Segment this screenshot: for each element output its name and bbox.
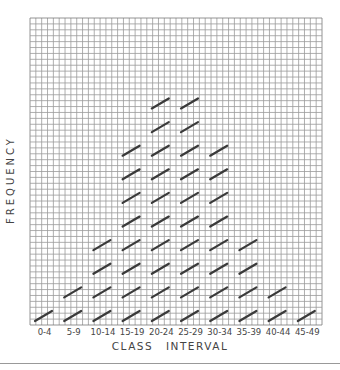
tally-mark	[152, 193, 169, 203]
tally-mark	[181, 311, 198, 321]
y-axis-label: FREQUENCY	[5, 136, 16, 224]
x-tick-label: 20-24	[147, 327, 176, 337]
x-tick-label: 45-49	[293, 327, 322, 337]
tally-mark	[152, 122, 169, 132]
tally-mark	[298, 311, 315, 321]
x-tick-label: 0-4	[30, 327, 59, 337]
tally-mark	[181, 264, 198, 274]
tally-mark	[210, 193, 227, 203]
tally-mark	[181, 287, 198, 297]
x-tick-label: 5-9	[59, 327, 88, 337]
bottom-separator	[0, 363, 340, 364]
tally-mark	[123, 217, 140, 227]
tally-mark	[152, 169, 169, 179]
tally-mark	[269, 287, 286, 297]
tally-mark	[181, 98, 198, 108]
x-tick-label: 30-34	[205, 327, 234, 337]
tally-mark	[152, 217, 169, 227]
tally-mark	[181, 122, 198, 132]
tally-mark	[93, 264, 110, 274]
tally-mark	[181, 217, 198, 227]
tally-mark	[210, 217, 227, 227]
tally-mark	[269, 311, 286, 321]
tally-mark	[123, 264, 140, 274]
tally-mark	[239, 287, 256, 297]
tally-mark	[64, 287, 81, 297]
x-tick-label: 40-44	[264, 327, 293, 337]
x-tick-label: 10-14	[88, 327, 117, 337]
tally-mark	[93, 311, 110, 321]
x-tick-label: 35-39	[234, 327, 263, 337]
histogram-chart	[0, 0, 340, 370]
tally-mark	[239, 264, 256, 274]
tally-mark	[35, 311, 52, 321]
tally-mark	[123, 169, 140, 179]
tally-mark	[152, 98, 169, 108]
tally-mark	[152, 240, 169, 250]
tally-mark	[123, 311, 140, 321]
tally-mark	[152, 287, 169, 297]
tally-mark	[181, 193, 198, 203]
tally-mark	[123, 240, 140, 250]
tally-mark	[93, 240, 110, 250]
tally-mark	[239, 311, 256, 321]
tally-mark	[210, 146, 227, 156]
tally-mark	[210, 240, 227, 250]
tally-mark	[181, 169, 198, 179]
x-tick-label: 25-29	[176, 327, 205, 337]
tally-mark	[123, 146, 140, 156]
x-axis-label: CLASS INTERVAL	[0, 340, 340, 352]
tally-mark	[152, 146, 169, 156]
tally-mark	[93, 287, 110, 297]
tally-mark	[239, 240, 256, 250]
tally-mark	[210, 287, 227, 297]
tally-mark	[210, 311, 227, 321]
tally-mark	[152, 264, 169, 274]
x-axis-ticks: 0-45-910-1415-1920-2425-2930-3435-3940-4…	[30, 327, 322, 337]
tally-mark	[123, 287, 140, 297]
tally-mark	[181, 240, 198, 250]
tally-mark	[210, 169, 227, 179]
x-tick-label: 15-19	[118, 327, 147, 337]
tally-mark	[210, 264, 227, 274]
grid-paper	[30, 18, 322, 325]
tally-mark	[181, 146, 198, 156]
tally-mark	[152, 311, 169, 321]
tally-mark	[123, 193, 140, 203]
tally-mark	[64, 311, 81, 321]
